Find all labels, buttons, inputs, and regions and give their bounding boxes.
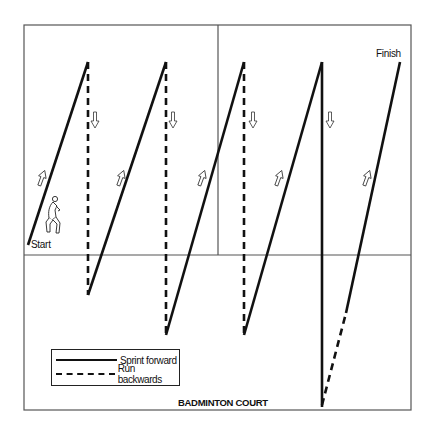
start-label: Start	[31, 239, 51, 250]
arrow-down-icon	[169, 112, 177, 128]
sprint-forward-segment	[88, 62, 166, 295]
arrow-down-icon	[326, 112, 334, 128]
arrow-up-icon	[273, 169, 286, 187]
legend-label: Run backwards	[118, 363, 179, 385]
solid-line-swatch	[56, 359, 117, 361]
sprint-forward-segment	[244, 62, 322, 335]
run-backwards-segment	[322, 313, 346, 405]
sprint-forward-segment	[28, 62, 88, 245]
arrow-down-icon	[91, 112, 99, 128]
court-label: BADMINTON COURT	[178, 397, 268, 408]
arrow-up-icon	[196, 169, 209, 187]
runner-icon	[46, 196, 60, 233]
legend: Sprint forward Run backwards	[51, 349, 180, 386]
legend-item-run-backwards: Run backwards	[56, 367, 179, 381]
sprint-forward-segment	[346, 62, 400, 313]
sprint-forward-segment	[166, 62, 244, 335]
arrow-down-icon	[249, 112, 257, 128]
dashed-line-swatch	[56, 373, 115, 375]
arrow-up-icon	[36, 169, 49, 187]
finish-label: Finish	[376, 48, 401, 59]
arrow-up-icon	[361, 169, 374, 187]
